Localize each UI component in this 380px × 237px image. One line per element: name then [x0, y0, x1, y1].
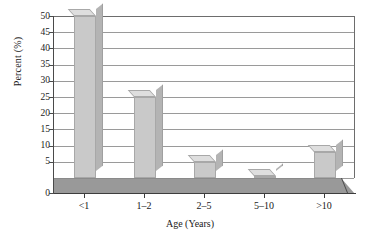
y-tick-mark-30 [49, 81, 53, 82]
bar-age-2-5[interactable] [194, 162, 216, 178]
bar-top-face [188, 155, 216, 162]
bars-layer [54, 16, 354, 194]
x-tick-label-under-1: <1 [54, 200, 114, 212]
y-tick-mark-5 [49, 162, 53, 163]
x-tick-label-2-5: 2–5 [174, 200, 234, 212]
bar-top-face [308, 145, 336, 152]
y-tick-label-35: 35 [28, 60, 50, 70]
bar-age-over-10[interactable] [314, 152, 336, 178]
y-tick-label-10: 10 [28, 141, 50, 151]
bar-top-face [248, 169, 276, 176]
x-tick-mark-3 [264, 194, 265, 198]
y-tick-label-30: 30 [28, 76, 50, 86]
y-tick-mark-45 [49, 32, 53, 33]
y-tick-label-50: 50 [28, 12, 50, 22]
y-axis-title: Percent (%) [12, 7, 23, 117]
y-tick-mark-10 [49, 146, 53, 147]
y-axis-ticks: 50 45 40 35 30 25 20 15 10 5 0 [22, 0, 50, 237]
bar-top-face [128, 90, 156, 97]
y-tick-label-0: 0 [28, 189, 50, 199]
bar-age-5-10[interactable] [254, 176, 276, 178]
x-tick-mark-4 [324, 194, 325, 198]
bar-top-face [68, 9, 96, 16]
bar-front-face [134, 97, 156, 178]
x-tick-label-1-2: 1–2 [114, 200, 174, 212]
x-tick-mark-2 [204, 194, 205, 198]
bar-side-face [276, 164, 283, 171]
bar-front-face [314, 152, 336, 178]
x-tick-label-5-10: 5–10 [234, 200, 294, 212]
y-tick-label-5: 5 [28, 157, 50, 167]
bar-age-under-1[interactable] [74, 16, 96, 178]
x-axis-title: Age (Years) [0, 218, 380, 229]
bar-side-face [156, 85, 163, 171]
bar-side-face [96, 4, 103, 171]
bar-chart-figure: Percent (%) 50 45 40 35 30 25 20 15 10 5… [0, 0, 380, 237]
bar-side-face [216, 149, 223, 171]
y-tick-label-40: 40 [28, 44, 50, 54]
y-tick-mark-25 [49, 97, 53, 98]
x-tick-label-over-10: >10 [294, 200, 354, 212]
x-tick-mark-1 [144, 194, 145, 198]
y-tick-mark-40 [49, 48, 53, 49]
y-tick-mark-20 [49, 113, 53, 114]
plot-right-border [354, 16, 355, 178]
y-tick-mark-50 [49, 16, 53, 17]
bar-front-face [74, 16, 96, 178]
y-tick-label-20: 20 [28, 109, 50, 119]
bar-side-face [336, 140, 343, 171]
y-tick-mark-35 [49, 65, 53, 66]
y-tick-label-15: 15 [28, 125, 50, 135]
x-axis-line [54, 193, 356, 194]
x-tick-mark-0 [84, 194, 85, 198]
bar-age-1-2[interactable] [134, 97, 156, 178]
y-tick-mark-0 [49, 193, 53, 194]
bar-front-face [254, 176, 276, 178]
y-tick-label-25: 25 [28, 93, 50, 103]
y-tick-mark-15 [49, 129, 53, 130]
y-tick-label-45: 45 [28, 28, 50, 38]
bar-front-face [194, 162, 216, 178]
